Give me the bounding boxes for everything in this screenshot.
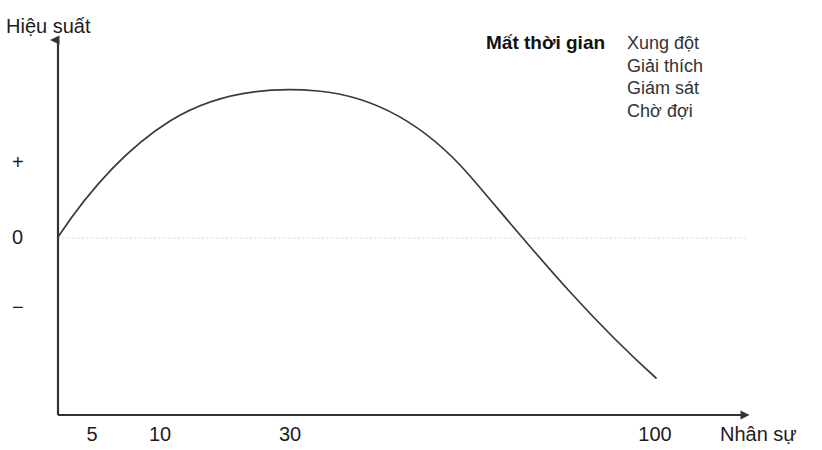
x-tick-30: 30 bbox=[279, 424, 301, 444]
legend-item: Xung đột bbox=[627, 32, 703, 55]
legend-title: Mất thời gian bbox=[486, 32, 605, 54]
legend-item: Giải thích bbox=[627, 55, 703, 78]
y-tick-plus: + bbox=[12, 152, 24, 172]
legend-item: Giám sát bbox=[627, 77, 703, 100]
y-tick-zero: 0 bbox=[12, 227, 23, 247]
legend-item-list: Xung đột Giải thích Giám sát Chờ đợi bbox=[627, 32, 703, 122]
y-axis-title: Hiệu suất bbox=[6, 16, 91, 36]
legend-item: Chờ đợi bbox=[627, 100, 703, 123]
performance-curve bbox=[58, 90, 656, 378]
x-tick-10: 10 bbox=[149, 424, 171, 444]
x-tick-5: 5 bbox=[86, 424, 97, 444]
performance-vs-headcount-chart: Hiệu suất + 0 − 5 10 30 100 Nhân sự Mất … bbox=[0, 0, 822, 450]
x-axis-title: Nhân sự bbox=[720, 424, 797, 444]
y-tick-minus: − bbox=[12, 297, 24, 317]
chart-legend: Mất thời gian Xung đột Giải thích Giám s… bbox=[486, 32, 703, 122]
x-tick-100: 100 bbox=[638, 424, 671, 444]
